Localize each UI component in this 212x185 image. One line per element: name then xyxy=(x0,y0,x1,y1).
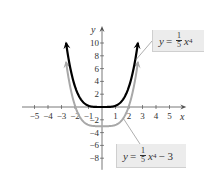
y-tick-label: −2 xyxy=(89,115,99,125)
x-tick-label: 4 xyxy=(154,111,159,121)
x-tick-label: 1 xyxy=(113,111,118,121)
label-bottom-function: y = 15 x4 − 3 xyxy=(116,144,186,168)
x-tick-label: −3 xyxy=(57,111,67,121)
y-axis-label: y xyxy=(90,24,96,35)
y-tick-label: 10 xyxy=(90,38,100,48)
x-tick-label: 3 xyxy=(140,111,145,121)
x-tick-label: −4 xyxy=(43,111,53,121)
y-tick-label: 2 xyxy=(95,89,100,99)
x-axis-label: x xyxy=(179,111,185,122)
y-tick-label: −8 xyxy=(89,153,99,163)
label-top-function: y = 15 x4 xyxy=(152,30,204,52)
x-tick-label: −5 xyxy=(30,111,40,121)
y-tick-label: 6 xyxy=(95,64,100,74)
y-tick-label: −6 xyxy=(89,140,99,150)
x-tick-label: 5 xyxy=(167,111,172,121)
fraction: 15 xyxy=(176,32,182,49)
fraction: 15 xyxy=(140,147,146,164)
leader-line xyxy=(124,119,140,144)
y-tick-label: −4 xyxy=(89,128,99,138)
y-tick-label: 4 xyxy=(95,76,100,86)
y-tick-label: 8 xyxy=(95,51,100,61)
